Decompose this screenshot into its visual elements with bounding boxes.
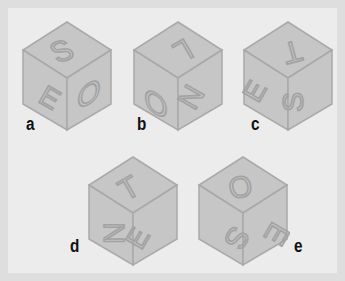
cube-d: T N E xyxy=(86,155,180,267)
cube-b-label: b xyxy=(137,114,146,135)
cube-c-label: c xyxy=(251,114,260,135)
cube-e: O S E xyxy=(196,155,290,267)
cube-a-label: a xyxy=(26,114,35,135)
cube-d-label: d xyxy=(70,236,79,257)
cube-e-label: e xyxy=(294,236,303,257)
cube-c-right-letter: S xyxy=(276,92,309,112)
